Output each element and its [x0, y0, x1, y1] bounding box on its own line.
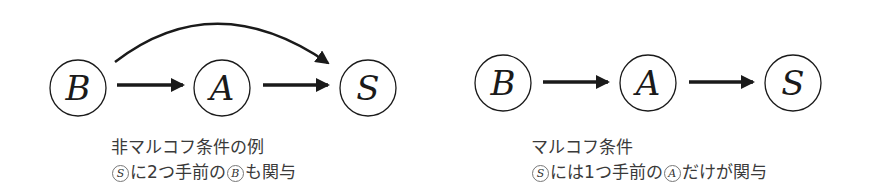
right-diagram: B A S [475, 55, 821, 111]
node-b: B [50, 60, 106, 116]
node-a: A [194, 60, 250, 116]
arrow-b-to-s-curved [115, 24, 328, 63]
left-caption: 非マルコフ条件の例 Sに2つ手前のBも関与 [111, 135, 296, 185]
circled-s: S [112, 165, 129, 182]
circled-s: S [532, 165, 549, 182]
node-b: B [475, 55, 531, 111]
caption-text: には1つ手前の [550, 162, 663, 182]
right-caption-title: マルコフ条件 [531, 135, 767, 160]
node-s: S [340, 60, 396, 116]
caption-text: だけが関与 [682, 162, 767, 182]
node-a-label: A [633, 63, 661, 103]
node-s-label: S [781, 63, 804, 103]
caption-text: に2つ手前の [130, 162, 226, 182]
node-s-label: S [356, 68, 379, 108]
left-diagram: B A S [50, 24, 396, 116]
node-a: A [620, 55, 676, 111]
left-caption-detail: Sに2つ手前のBも関与 [111, 160, 296, 185]
caption-text: も関与 [245, 162, 296, 182]
node-b-label: B [490, 63, 516, 103]
circled-a: A [664, 165, 681, 182]
node-s: S [765, 55, 821, 111]
left-caption-title: 非マルコフ条件の例 [111, 135, 296, 160]
node-a-label: A [207, 68, 235, 108]
right-caption-detail: Sには1つ手前のAだけが関与 [531, 160, 767, 185]
circled-b: B [227, 165, 244, 182]
node-b-label: B [65, 68, 91, 108]
right-caption: マルコフ条件 Sには1つ手前のAだけが関与 [531, 135, 767, 185]
